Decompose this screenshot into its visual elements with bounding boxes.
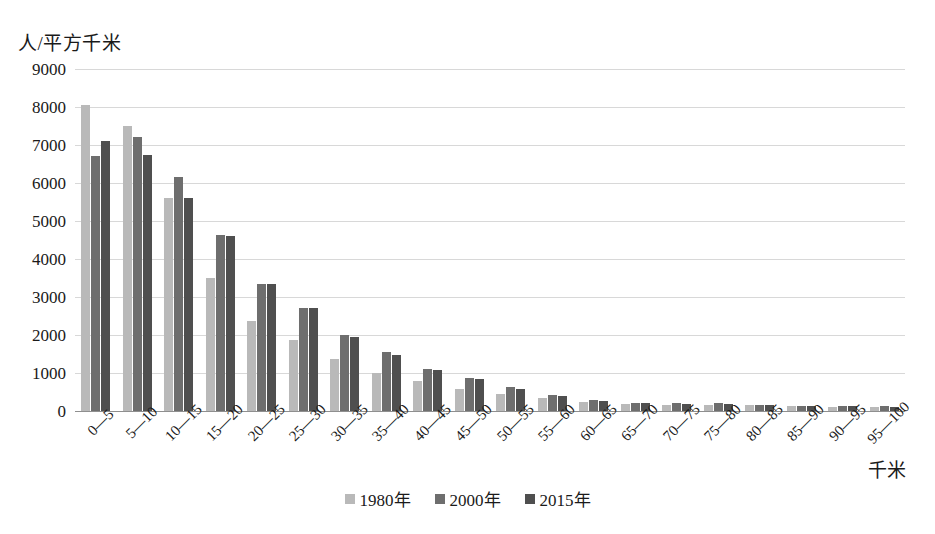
x-axis-tick-cell: 5—10: [117, 413, 159, 483]
bar: [299, 308, 308, 411]
bar: [143, 155, 152, 412]
bar-group: [573, 69, 615, 411]
bar: [164, 198, 173, 411]
bar: [184, 198, 193, 411]
bar-group: [781, 69, 823, 411]
bar: [350, 337, 359, 411]
plot-area: 9000800070006000500040003000200010000: [75, 69, 905, 411]
bar: [289, 340, 298, 411]
bar: [267, 284, 276, 411]
y-axis-tick-label: 1000: [32, 365, 66, 382]
bar-group: [449, 69, 491, 411]
x-axis-tick-cell: 0—5: [75, 413, 117, 483]
x-axis-tick-cell: 60—65: [573, 413, 615, 483]
bar: [579, 402, 588, 412]
x-axis-tick-cell: 15—20: [200, 413, 242, 483]
bar: [423, 369, 432, 411]
bar-group: [739, 69, 781, 411]
bar-group: [158, 69, 200, 411]
chart-legend: 1980年2000年2015年: [0, 486, 935, 511]
bar: [455, 389, 464, 411]
legend-item: 2015年: [525, 486, 591, 511]
legend-item: 1980年: [345, 486, 411, 511]
bar: [589, 400, 598, 411]
bar: [631, 403, 640, 411]
bar: [257, 284, 266, 411]
bar: [704, 405, 713, 411]
bar-group: [864, 69, 906, 411]
x-axis-tick-cell: 80—85: [739, 413, 781, 483]
bar-group: [698, 69, 740, 411]
bar-group: [283, 69, 325, 411]
bar: [538, 398, 547, 411]
x-axis-tick-cell: 55—60: [532, 413, 574, 483]
bar-group: [407, 69, 449, 411]
x-axis-tick-cell: 75—80: [698, 413, 740, 483]
x-axis-tick-cell: 45—50: [449, 413, 491, 483]
bar: [496, 394, 505, 411]
legend-swatch-icon: [345, 494, 355, 504]
bar-group: [241, 69, 283, 411]
bar: [372, 373, 381, 411]
bar: [133, 137, 142, 411]
bar: [309, 308, 318, 411]
bar-group: [822, 69, 864, 411]
bar: [870, 407, 879, 411]
x-axis-tick-cell: 35—40: [366, 413, 408, 483]
bar: [174, 177, 183, 411]
y-axis-tick-label: 8000: [32, 99, 66, 116]
bar-group: [490, 69, 532, 411]
bar: [548, 395, 557, 411]
bar: [216, 235, 225, 411]
x-axis-tick-labels: 0—55—1010—1515—2020—2525—3030—3535—4040—…: [75, 413, 905, 483]
bar-group: [200, 69, 242, 411]
bar: [787, 406, 796, 411]
bar: [123, 126, 132, 411]
bar: [413, 381, 422, 411]
x-axis-tick-cell: 70—75: [656, 413, 698, 483]
bar: [101, 141, 110, 411]
bar-group: [75, 69, 117, 411]
legend-swatch-icon: [435, 494, 445, 504]
y-axis-tick-label: 4000: [32, 251, 66, 268]
y-axis-tick-label: 7000: [32, 137, 66, 154]
x-axis-tick-cell: 50—55: [490, 413, 532, 483]
legend-item-label: 1980年: [360, 486, 411, 511]
bar: [81, 105, 90, 411]
legend-item: 2000年: [435, 486, 501, 511]
legend-swatch-icon: [525, 494, 535, 504]
bar: [621, 404, 630, 411]
x-axis-tick-cell: 85—90: [781, 413, 823, 483]
x-axis-tick-cell: 30—35: [324, 413, 366, 483]
bar: [206, 278, 215, 411]
bar: [91, 156, 100, 411]
bar: [755, 405, 764, 411]
bar-groups: [75, 69, 905, 411]
bar: [506, 387, 515, 411]
bar: [745, 405, 754, 411]
x-axis-tick-cell: 20—25: [241, 413, 283, 483]
bar: [838, 406, 847, 411]
y-axis-tick-label: 2000: [32, 327, 66, 344]
x-axis-tick-cell: 90—95: [822, 413, 864, 483]
y-axis-tick-label: 5000: [32, 213, 66, 230]
bar-group: [615, 69, 657, 411]
y-axis-tick-label: 0: [58, 403, 67, 420]
x-axis-tick-cell: 10—15: [158, 413, 200, 483]
bar-group: [532, 69, 574, 411]
bar: [465, 378, 474, 411]
bar: [662, 405, 671, 411]
y-axis-unit-label: 人/平方千米: [18, 28, 121, 55]
y-axis-tick-label: 3000: [32, 289, 66, 306]
bar: [382, 352, 391, 411]
population-density-bar-chart: 人/平方千米 900080007000600050004000300020001…: [0, 0, 935, 534]
bar: [672, 403, 681, 411]
bar: [340, 335, 349, 411]
legend-item-label: 2015年: [540, 486, 591, 511]
bar: [247, 321, 256, 411]
x-axis-tick-cell: 65—70: [615, 413, 657, 483]
bar-group: [324, 69, 366, 411]
bar-group: [656, 69, 698, 411]
bar: [330, 359, 339, 411]
x-axis-unit-label: 千米: [868, 455, 906, 482]
